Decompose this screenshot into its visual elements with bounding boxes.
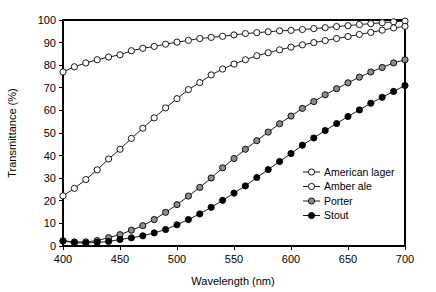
transmittance-line-chart: 400450500550600650700 010203040506070809… (0, 0, 436, 292)
data-point (345, 33, 351, 39)
data-point (345, 80, 351, 86)
data-point (242, 30, 248, 36)
data-point (299, 105, 305, 111)
data-point (288, 150, 294, 156)
legend-label: Porter (324, 195, 353, 207)
data-point (334, 35, 340, 41)
x-tick-label: 550 (225, 253, 243, 265)
data-point (265, 167, 271, 173)
data-point (60, 238, 66, 244)
y-tick-label: 10 (44, 217, 56, 229)
data-point (242, 183, 248, 189)
data-point (231, 155, 237, 161)
data-point (277, 47, 283, 53)
legend-label: American lager (324, 166, 395, 178)
data-point (379, 27, 385, 33)
data-point (379, 64, 385, 70)
data-point (311, 98, 317, 104)
data-point (117, 236, 123, 242)
data-point (391, 88, 397, 94)
data-point (368, 21, 374, 27)
data-point (356, 74, 362, 80)
data-point (151, 43, 157, 49)
data-point (83, 240, 89, 246)
data-point (185, 193, 191, 199)
data-point (254, 138, 260, 144)
data-point (197, 80, 203, 86)
data-point (356, 31, 362, 37)
data-point (288, 44, 294, 50)
data-point (356, 107, 362, 113)
data-point (140, 233, 146, 239)
data-point (391, 25, 397, 31)
x-tick-label: 650 (339, 253, 357, 265)
data-point (277, 158, 283, 164)
data-point (151, 115, 157, 121)
data-point (322, 25, 328, 31)
data-point (94, 167, 100, 173)
data-point (277, 121, 283, 127)
data-point (220, 33, 226, 39)
data-point (368, 29, 374, 35)
data-point (242, 146, 248, 152)
legend-marker (308, 212, 314, 218)
data-point (197, 35, 203, 41)
data-point (334, 120, 340, 126)
data-point (356, 21, 362, 27)
data-point (94, 239, 100, 245)
data-point (311, 40, 317, 46)
data-point (311, 135, 317, 141)
data-point (197, 184, 203, 190)
y-tick-label: 40 (44, 150, 56, 162)
data-point (140, 125, 146, 131)
y-tick-label: 50 (44, 127, 56, 139)
data-point (265, 129, 271, 135)
data-point (402, 23, 408, 29)
data-point (185, 87, 191, 93)
data-point (140, 45, 146, 51)
legend-marker (308, 183, 314, 189)
data-point (231, 61, 237, 67)
data-point (151, 230, 157, 236)
x-tick-label: 400 (54, 253, 72, 265)
y-tick-label: 80 (44, 59, 56, 71)
data-point (391, 19, 397, 25)
data-point (345, 113, 351, 119)
y-tick-label: 60 (44, 104, 56, 116)
data-point (94, 57, 100, 63)
data-point (185, 216, 191, 222)
data-point (322, 127, 328, 133)
data-point (220, 165, 226, 171)
data-point (254, 53, 260, 59)
data-point (208, 204, 214, 210)
data-point (391, 60, 397, 66)
data-point (345, 23, 351, 29)
data-point (163, 105, 169, 111)
data-point (174, 39, 180, 45)
y-tick-label: 30 (44, 172, 56, 184)
data-point (117, 52, 123, 58)
x-tick-label: 500 (168, 253, 186, 265)
data-point (220, 66, 226, 72)
chart-figure: 400450500550600650700 010203040506070809… (0, 0, 436, 292)
data-point (197, 211, 203, 217)
data-point (208, 72, 214, 78)
data-point (277, 28, 283, 34)
y-tick-label: 70 (44, 82, 56, 94)
data-point (334, 86, 340, 92)
data-point (163, 209, 169, 215)
data-point (299, 142, 305, 148)
x-tick-label: 600 (282, 253, 300, 265)
chart-background (0, 0, 436, 292)
y-axis-title: Transmittance (%) (6, 88, 18, 177)
data-point (128, 235, 134, 241)
data-point (117, 146, 123, 152)
data-point (83, 176, 89, 182)
data-point (83, 60, 89, 66)
data-point (151, 216, 157, 222)
x-tick-label: 700 (396, 253, 414, 265)
data-point (71, 185, 77, 191)
data-point (106, 156, 112, 162)
data-point (220, 197, 226, 203)
data-point (163, 41, 169, 47)
